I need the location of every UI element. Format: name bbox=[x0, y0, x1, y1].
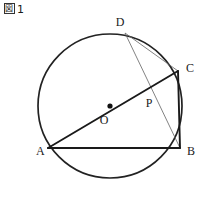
vertex-label-B: B bbox=[187, 144, 195, 158]
vertex-label-A: A bbox=[36, 144, 45, 158]
vertex-label-C: C bbox=[186, 61, 194, 75]
segment-DC bbox=[125, 33, 178, 71]
geometry-diagram: D C B A O P bbox=[0, 0, 210, 200]
center-point-dot bbox=[107, 103, 112, 108]
vertex-label-D: D bbox=[116, 15, 125, 29]
vertex-label-O: O bbox=[100, 113, 109, 127]
vertex-label-P: P bbox=[146, 96, 153, 110]
segment-CB bbox=[178, 71, 180, 148]
segment-AC bbox=[48, 71, 178, 148]
figure-container: 図1 D C B A O P bbox=[0, 0, 210, 200]
segment-DB bbox=[125, 33, 180, 148]
